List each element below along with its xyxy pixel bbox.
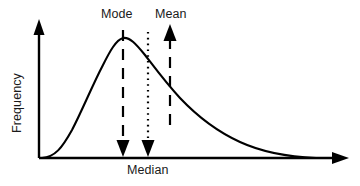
mode-label: Mode [101,7,133,21]
y-axis-arrowhead-icon [34,19,45,35]
y-axis-label-frequency: Frequency [10,68,24,138]
median-label: Median [127,163,169,177]
median-down-arrowhead-icon [142,140,155,157]
mode-down-arrowhead-icon [117,140,130,157]
mean-label: Mean [155,7,187,21]
diagram-canvas [0,0,360,186]
mean-up-arrowhead-icon [164,24,177,41]
distribution-diagram: Mode Mean Median Frequency [0,0,360,186]
frequency-curve [42,38,344,158]
